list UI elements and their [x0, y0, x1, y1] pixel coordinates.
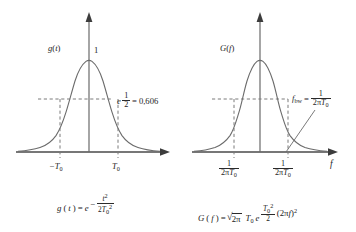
tick-right-denominator: 2πT0: [273, 168, 293, 178]
eq-left-den-sup: 2: [109, 203, 112, 210]
tick-left-numerator: 1: [219, 160, 239, 168]
fbw-sub: bw: [294, 97, 302, 104]
fbw-fraction-denominator: 2πT0: [311, 98, 331, 108]
eq-left-exponent: − t2 2T02: [91, 193, 114, 215]
fbw-fraction: 1 2πT0: [311, 90, 331, 108]
peak-value-label: 1: [94, 46, 98, 55]
level-annotation: e 1 2 = 0,606: [117, 92, 158, 110]
eq-left-open: (: [63, 203, 66, 213]
G-axis-arrowhead: [257, 12, 264, 22]
eq-left-num-sup: 2: [105, 192, 108, 199]
eq-left-equals: =: [78, 203, 83, 213]
tick-right-den-sub: 0: [288, 171, 291, 178]
eq-right-close: ): [216, 213, 219, 223]
axis-label-f: f: [330, 160, 333, 169]
eq-right-num-sup: 2: [270, 202, 273, 209]
eq-right-equals: =: [221, 213, 226, 223]
tick-label-right-freq: 1 2πT0: [273, 160, 293, 178]
fbw-fraction-numerator: 1: [311, 90, 331, 98]
eq-right-fraction-denominator: 2: [261, 214, 274, 223]
tick-label-negative-T0: −T0: [49, 162, 63, 172]
eq-right-tail-sup: 2: [294, 207, 297, 214]
frequency-domain-equation: G(f) = 2π T0 e T02 2 (2πf)2: [198, 208, 297, 228]
tick-label-negative-T0-text: −T: [49, 161, 60, 171]
curve-label-gt-close: ): [58, 43, 61, 53]
eq-left-fraction-numerator: t2: [97, 193, 114, 203]
tick-left-fraction: 1 2πT0: [219, 160, 239, 178]
level-fraction: 1 2: [122, 92, 130, 110]
tick-label-positive-T0-sub: 0: [117, 165, 120, 172]
tick-label-positive-T0: T0: [112, 162, 120, 172]
frequency-domain-plot: G(f) fbw = 1 2πT0 1 2πT0 1 2πT0 f: [178, 0, 356, 232]
tick-left-den-sub: 0: [234, 171, 237, 178]
eq-left-fraction-denominator: 2T02: [97, 203, 114, 215]
level-equals-value: = 0,606: [132, 97, 158, 106]
eq-left-g: g: [57, 203, 61, 213]
tick-right-fraction: 1 2πT0: [273, 160, 293, 178]
eq-right-open: (: [206, 213, 209, 223]
eq-right-G: G: [198, 213, 204, 223]
curve-label-Gf-close: ): [231, 43, 234, 53]
eq-left-minus: −: [91, 199, 96, 209]
gaussian-transform-figure: g(t) 1 e 1 2 = 0,606 −T0 T0 g(t) = e −: [0, 0, 356, 232]
fbw-symbol: fbw: [292, 94, 302, 104]
fbw-equals: =: [304, 95, 309, 104]
eq-right-exponent: T02 2 (2πf)2: [261, 203, 297, 223]
curve-label-Gf: G(f): [220, 44, 234, 53]
eq-right-sqrt-content: 2π: [232, 213, 242, 224]
tick-left-denominator: 2πT0: [219, 168, 239, 178]
curve-label-gt: g(t): [48, 44, 60, 53]
tick-right-numerator: 1: [273, 160, 293, 168]
fbw-den-2pi: 2π: [313, 98, 321, 107]
eq-right-fraction-numerator: T02: [261, 203, 274, 214]
tick-left-den-2pi: 2π: [221, 168, 229, 177]
eq-right-sqrt: 2π: [228, 212, 242, 223]
fbw-den-sub: 0: [326, 101, 329, 108]
tick-label-negative-T0-sub: 0: [60, 165, 63, 172]
eq-right-T-sub: 0: [250, 216, 253, 223]
eq-right-e: e: [256, 213, 260, 223]
g-axis-arrowhead: [86, 12, 93, 22]
t-axis-arrowhead: [160, 148, 170, 156]
eq-right-T0: T0: [246, 213, 254, 224]
eq-left-fraction: t2 2T02: [97, 193, 114, 215]
level-fraction-denominator: 2: [122, 100, 130, 109]
eq-left-t: t: [68, 203, 70, 213]
eq-left-e: e: [85, 203, 89, 213]
frequency-domain-graphics: [178, 0, 356, 232]
tick-right-den-2pi: 2π: [275, 168, 283, 177]
bandwidth-annotation: fbw = 1 2πT0: [292, 90, 331, 108]
level-fraction-numerator: 1: [122, 92, 130, 100]
eq-left-close: ): [73, 203, 76, 213]
time-domain-equation: g(t) = e − t2 2T02: [57, 197, 114, 219]
eq-right-f: f: [211, 213, 213, 223]
eq-right-tail-open: (2π: [277, 209, 289, 219]
eq-right-tail: (2πf)2: [277, 207, 297, 218]
level-e: e: [117, 97, 121, 106]
f-axis-arrowhead: [328, 148, 338, 156]
eq-right-fraction: T02 2: [261, 203, 274, 223]
time-domain-plot: g(t) 1 e 1 2 = 0,606 −T0 T0 g(t) = e −: [0, 0, 178, 232]
tick-label-left-freq: 1 2πT0: [219, 160, 239, 178]
